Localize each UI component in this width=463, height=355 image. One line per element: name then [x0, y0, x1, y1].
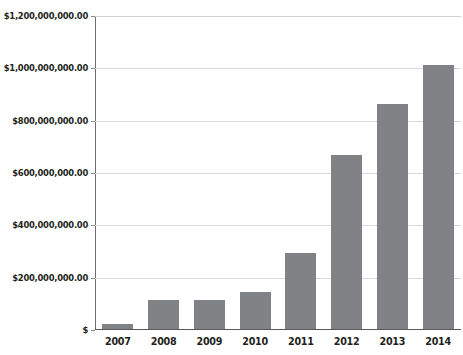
y-axis-tick [91, 225, 95, 226]
x-axis-label-2013: 2013 [379, 336, 405, 347]
bar-2011[interactable] [285, 253, 316, 329]
y-axis-tick [91, 173, 95, 174]
x-axis-label-2010: 2010 [242, 336, 268, 347]
x-axis-label-2011: 2011 [288, 336, 314, 347]
y-axis-label: $400,000,000.00 [0, 220, 88, 230]
y-axis-label: $1,200,000,000.00 [0, 11, 88, 21]
y-axis-tick [91, 121, 95, 122]
gridline [95, 16, 461, 17]
bar-2008[interactable] [148, 300, 179, 329]
gridline [95, 68, 461, 69]
bar-2007[interactable] [102, 324, 133, 329]
y-axis-tick [91, 278, 95, 279]
y-axis-tick [91, 68, 95, 69]
x-axis-label-2012: 2012 [334, 336, 360, 347]
plot-area [95, 16, 461, 330]
x-axis-label-2014: 2014 [425, 336, 451, 347]
bar-2013[interactable] [377, 104, 408, 329]
x-axis-label-2007: 2007 [105, 336, 131, 347]
y-axis-label: $1,000,000,000.00 [0, 63, 88, 73]
y-axis-tick [91, 16, 95, 17]
bar-2012[interactable] [331, 155, 362, 329]
y-axis-label: $600,000,000.00 [0, 168, 88, 178]
x-axis-label-2008: 2008 [151, 336, 177, 347]
y-axis-label: $800,000,000.00 [0, 116, 88, 126]
bar-2010[interactable] [240, 292, 271, 329]
bar-2014[interactable] [423, 65, 454, 329]
y-axis-tick [91, 330, 95, 331]
clipped-top-text: $ [0, 0, 92, 1]
y-axis-label: $200,000,000.00 [0, 273, 88, 283]
y-axis-label: $ [0, 325, 88, 335]
x-axis-label-2009: 2009 [196, 336, 222, 347]
bar-2009[interactable] [194, 300, 225, 329]
x-axis-line [95, 329, 461, 330]
bar-chart: $ $$200,000,000.00$400,000,000.00$600,00… [0, 0, 463, 355]
